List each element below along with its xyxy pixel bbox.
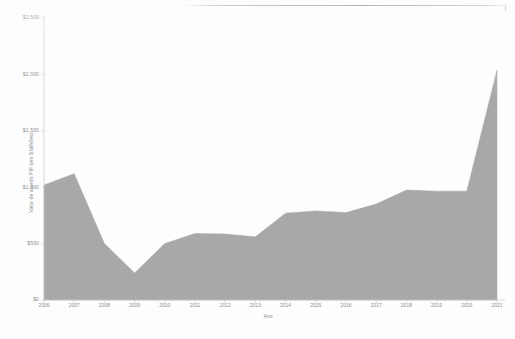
x-axis-tick-label: 2010	[151, 304, 179, 309]
x-axis-tick-label: 2013	[241, 304, 269, 309]
x-axis-tick-label: 2017	[362, 304, 390, 309]
x-axis-tick-label: 2020	[453, 304, 481, 309]
x-axis-tick-label: 2014	[272, 304, 300, 309]
x-axis-tick-label: 2012	[211, 304, 239, 309]
y-axis-title: Valor de acordo PIF (em $ bilhões)	[29, 113, 34, 233]
x-axis-tick-label: 2015	[302, 304, 330, 309]
x-axis-tick-label: 2018	[392, 304, 420, 309]
y-axis-tick-label: $500	[0, 241, 39, 246]
x-axis-tick-label: 2007	[60, 304, 88, 309]
chart-plot-area	[0, 0, 515, 339]
x-axis-tick-label: 2009	[121, 304, 149, 309]
x-axis-tick-label: 2006	[30, 304, 58, 309]
x-axis-tick-label: 2019	[423, 304, 451, 309]
x-axis-tick-label: 2008	[90, 304, 118, 309]
area-chart-figure: $0$500$1.000$1.500$2.000$2.500 200620072…	[0, 0, 515, 339]
y-axis-tick-label: $0	[0, 297, 39, 302]
y-axis-tick-label: $2.500	[0, 15, 39, 20]
x-axis-tick-label: 2016	[332, 304, 360, 309]
y-axis-tick-label: $2.000	[0, 72, 39, 77]
x-axis-tick-label: 2021	[483, 304, 511, 309]
x-axis-tick-label: 2011	[181, 304, 209, 309]
x-axis-title: Ano	[228, 314, 308, 319]
area-series-valor-de-acordo-pif	[44, 70, 497, 300]
